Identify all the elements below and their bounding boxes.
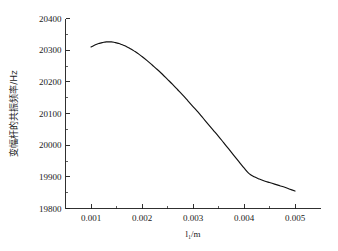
y-axis-tick-label: 19800 [39,204,62,214]
y-axis-tick-label: 20000 [39,140,62,150]
y-axis-tick-label: 20100 [39,109,62,119]
y-axis-tick-label: 20400 [39,14,62,24]
x-axis-tick-label: 0.004 [234,213,255,223]
figure-container: 19800199002000020100202002030020400 0.00… [0,0,338,251]
line-chart: 19800199002000020100202002030020400 0.00… [0,0,338,251]
y-axis-title: 变幅杆的共振频率/Hz [8,70,19,157]
x-axis-tick-label: 0.002 [132,213,152,223]
x-axis-tick-label: 0.001 [81,213,101,223]
y-axis-tick-label: 20200 [39,77,62,87]
x-axis-title: l₁/m [185,229,200,239]
x-axis-tick-label: 0.003 [183,213,204,223]
x-axis-tick-label: 0.005 [285,213,306,223]
y-axis-tick-label: 19900 [39,172,62,182]
y-axis-tick-label: 20300 [39,45,62,55]
